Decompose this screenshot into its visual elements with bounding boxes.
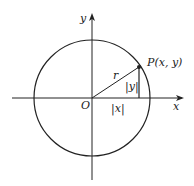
abs-x-label: |x| (111, 102, 125, 116)
point-label: P(x, y) (146, 56, 182, 69)
abs-y-label: |y| (125, 80, 139, 94)
unit-circle-diagram: y x O r P(x, y) |y| |x| (0, 0, 194, 186)
x-axis-label: x (173, 100, 180, 113)
y-axis-label: y (79, 12, 87, 25)
origin-label: O (81, 99, 90, 112)
point-p (137, 65, 141, 69)
radius-label: r (113, 69, 119, 82)
